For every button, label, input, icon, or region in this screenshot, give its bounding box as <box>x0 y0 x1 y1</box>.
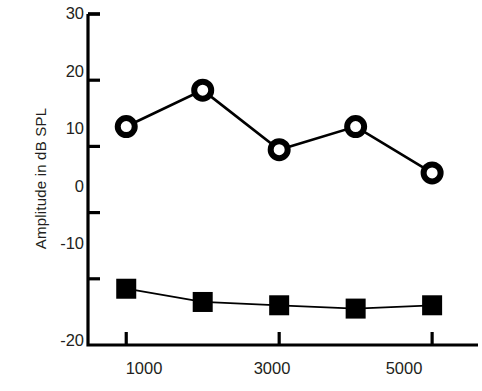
data-point-square <box>346 299 366 319</box>
data-point-square <box>269 295 289 315</box>
data-point-square <box>422 295 442 315</box>
data-point-circle <box>118 118 135 135</box>
plot-area <box>0 0 482 391</box>
data-point-square <box>116 279 136 299</box>
data-point-square <box>193 292 213 312</box>
data-point-circle <box>347 118 364 135</box>
data-point-circle <box>194 82 211 99</box>
chart-container: Amplitude in dB SPL 30 20 10 0 -10 -20 1… <box>0 0 482 391</box>
data-point-circle <box>271 141 288 158</box>
data-point-circle <box>424 164 441 181</box>
